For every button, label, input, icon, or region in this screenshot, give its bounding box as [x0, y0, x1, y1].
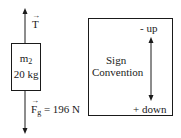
gravity-arrowhead-icon — [23, 128, 28, 134]
sign-title-line1: Sign — [99, 54, 159, 66]
mass-symbol: m — [20, 52, 29, 64]
sign-title-line2: Convention — [92, 66, 143, 78]
mass-subscript: 2 — [28, 57, 32, 66]
down-label: + down — [133, 103, 166, 115]
up-arrowhead-icon — [149, 37, 154, 43]
tension-arrowhead-icon — [23, 8, 28, 14]
gravity-label: Fg = 196 N — [31, 103, 80, 119]
sign-word: Sign — [106, 54, 126, 66]
gravity-subscript: g — [37, 108, 41, 117]
mass-name: m2 — [14, 52, 38, 68]
mass-value: 20 kg — [12, 68, 40, 80]
tension-symbol: T — [32, 18, 39, 30]
tension-label: T — [32, 18, 39, 30]
down-arrowhead-icon — [149, 95, 154, 101]
gravity-value: = 196 N — [44, 103, 80, 115]
up-label: - up — [140, 22, 157, 34]
gravity-symbol: F — [31, 103, 37, 115]
